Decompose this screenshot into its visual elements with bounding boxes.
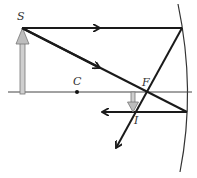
- label-center: C: [73, 75, 82, 88]
- center-point: [75, 90, 79, 94]
- concave-mirror: [178, 4, 188, 172]
- ray-focal-arrow: [22, 28, 100, 68]
- label-image: I: [133, 114, 139, 127]
- object-arrow: [16, 28, 29, 94]
- concave-mirror-ray-diagram: S C F I: [0, 0, 197, 178]
- label-source: S: [17, 10, 25, 23]
- label-focus: F: [141, 76, 150, 89]
